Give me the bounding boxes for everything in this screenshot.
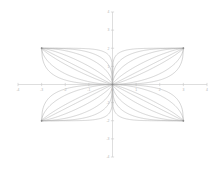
superellipse-plot: -4-3-2-101234-4-3-2-11234: [0, 0, 217, 171]
svg-text:-2: -2: [106, 119, 109, 123]
svg-text:3: 3: [108, 28, 110, 32]
svg-text:1: 1: [135, 88, 137, 92]
svg-text:2: 2: [159, 88, 161, 92]
svg-text:4: 4: [206, 88, 208, 92]
svg-text:3: 3: [182, 88, 184, 92]
svg-text:-4: -4: [16, 88, 19, 92]
svg-text:-4: -4: [106, 155, 109, 159]
svg-text:-3: -3: [40, 88, 43, 92]
chart-figure: -4-3-2-101234-4-3-2-11234: [0, 0, 217, 171]
svg-text:-3: -3: [106, 137, 109, 141]
svg-text:-1: -1: [87, 88, 90, 92]
svg-text:4: 4: [108, 10, 110, 14]
svg-text:2: 2: [108, 47, 110, 51]
